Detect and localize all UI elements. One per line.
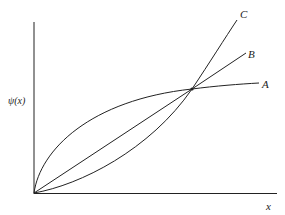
curve-b — [34, 53, 246, 193]
x-axis-label: x — [265, 200, 271, 212]
intersection-point — [190, 87, 193, 90]
y-axis-label: ψ(x) — [8, 95, 26, 107]
curve-b-label: B — [248, 48, 255, 60]
curve-c — [34, 20, 237, 193]
diagram: C B A x ψ(x) — [0, 0, 285, 215]
curve-c-label: C — [240, 8, 248, 20]
curve-a-label: A — [261, 78, 269, 90]
